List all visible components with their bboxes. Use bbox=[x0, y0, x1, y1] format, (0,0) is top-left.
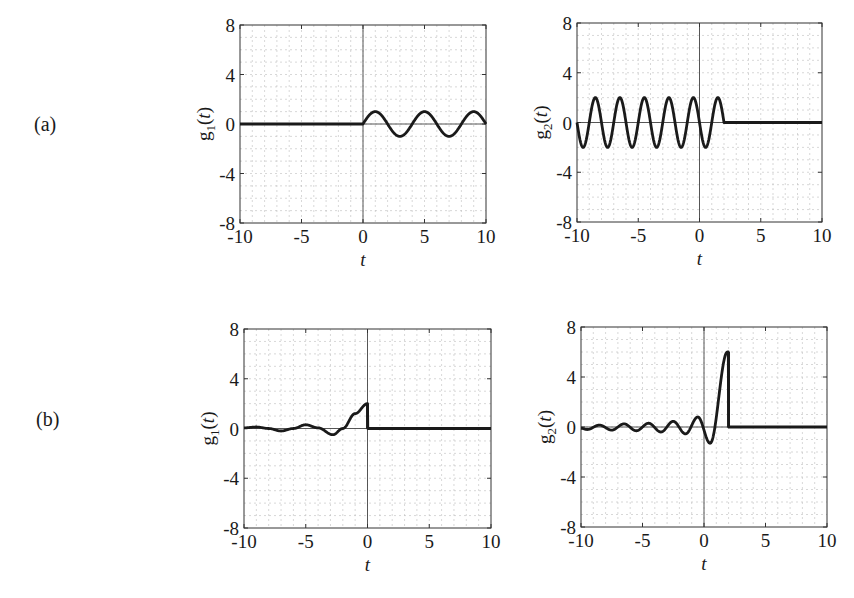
chart-b-g2: -10-50510-8-4048tg2(t) bbox=[0, 0, 854, 598]
x-axis-label: t bbox=[701, 553, 707, 574]
y-tick-label: -8 bbox=[560, 517, 576, 538]
x-tick-label: -5 bbox=[635, 530, 651, 551]
y-tick-label: 4 bbox=[567, 367, 577, 388]
x-tick-label: 10 bbox=[818, 530, 837, 551]
y-tick-label: -4 bbox=[560, 467, 576, 488]
x-tick-label: 0 bbox=[699, 530, 709, 551]
x-tick-label: 5 bbox=[761, 530, 771, 551]
y-tick-label: 0 bbox=[567, 417, 577, 438]
y-tick-label: 8 bbox=[567, 317, 577, 338]
y-axis-label: g2(t) bbox=[534, 410, 559, 444]
